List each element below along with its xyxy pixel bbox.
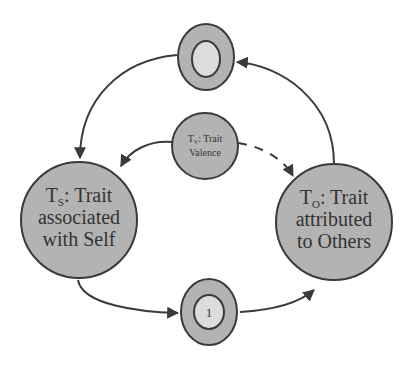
top-node xyxy=(178,24,234,90)
others-label-line3: to Others xyxy=(297,230,371,252)
bottom-node-label: 1 xyxy=(206,305,213,320)
trait-cycle-diagram: TV: Trait Valence TS: Trait associated w… xyxy=(0,0,416,370)
edge-others-to-top xyxy=(237,62,334,164)
edge-valence-to-self xyxy=(121,142,172,166)
valence-label-line2: Valence xyxy=(189,147,221,158)
self-label-line2: associated xyxy=(38,206,120,228)
others-node: TO: Trait attributed to Others xyxy=(276,164,392,280)
edge-bottom-to-others xyxy=(240,290,314,312)
valence-label-line1: TV: Trait xyxy=(188,133,223,145)
self-label-line3: with Self xyxy=(43,228,116,250)
bottom-node: 1 xyxy=(181,279,237,345)
self-node: TS: Trait associated with Self xyxy=(21,162,137,278)
self-label-line1: TS: Trait xyxy=(46,184,113,208)
edge-valence-to-others xyxy=(238,143,293,176)
others-label-line2: attributed xyxy=(296,208,373,230)
edge-self-to-bottom xyxy=(78,280,178,313)
others-label-line1: TO: Trait xyxy=(300,186,369,210)
valence-node: TV: Trait Valence xyxy=(172,113,238,179)
